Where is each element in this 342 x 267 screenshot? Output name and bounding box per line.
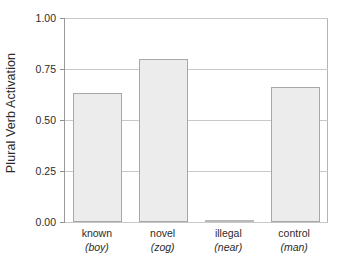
gridline <box>65 69 328 70</box>
y-tick-mark <box>60 222 65 223</box>
category-name: illegal <box>196 226 262 240</box>
y-tick-mark <box>60 120 65 121</box>
y-tick-mark <box>60 69 65 70</box>
category-example: (near) <box>196 240 262 254</box>
category-name: known <box>64 226 130 240</box>
x-tick-label-control: control (man) <box>261 226 327 254</box>
y-tick-label: 0.75 <box>36 63 56 75</box>
plot-area <box>64 18 328 223</box>
category-example: (zog) <box>130 240 196 254</box>
bar-known <box>73 93 122 222</box>
category-example: (boy) <box>64 240 130 254</box>
y-tick-label: 0.00 <box>36 216 56 228</box>
y-tick-label: 0.50 <box>36 114 56 126</box>
y-tick-mark <box>60 171 65 172</box>
bar-novel <box>139 59 188 222</box>
gridline <box>65 18 328 19</box>
x-tick-label-novel: novel (zog) <box>130 226 196 254</box>
y-tick-mark <box>60 18 65 19</box>
y-axis-title-text: Plural Verb Activation <box>4 52 18 172</box>
category-example: (man) <box>261 240 327 254</box>
category-name: control <box>261 226 327 240</box>
bar-chart: Plural Verb Activation 0.00 0.25 0.50 0.… <box>0 0 342 267</box>
gridline <box>65 222 328 223</box>
y-axis-tick-labels: 0.00 0.25 0.50 0.75 1.00 <box>24 0 60 267</box>
x-tick-label-known: known (boy) <box>64 226 130 254</box>
bar-control <box>271 87 320 222</box>
y-axis-title: Plural Verb Activation <box>0 0 22 225</box>
y-tick-label: 0.25 <box>36 165 56 177</box>
y-tick-label: 1.00 <box>36 12 56 24</box>
bar-illegal <box>205 220 254 222</box>
x-tick-label-illegal: illegal (near) <box>196 226 262 254</box>
x-axis-tick-labels: known (boy) novel (zog) illegal (near) c… <box>64 226 327 267</box>
category-name: novel <box>130 226 196 240</box>
